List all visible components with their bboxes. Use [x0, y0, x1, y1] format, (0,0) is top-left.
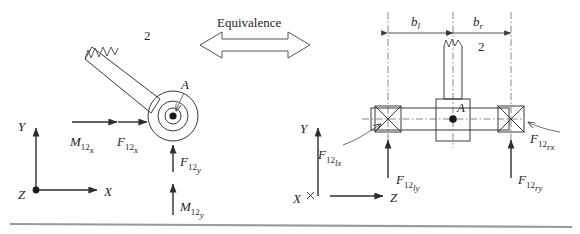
label-bearing-left-x: F12lx — [317, 147, 341, 168]
left-axes: Y X Z — [18, 119, 113, 202]
right-axis-label-x: X — [292, 191, 302, 206]
load-bearing-left-x: F12lx — [317, 124, 381, 168]
label-bearing-right-x: F12rx — [529, 131, 554, 152]
right-view: bl br A 2 — [292, 12, 560, 206]
double-headed-arrow — [200, 32, 310, 58]
bottom-rule — [10, 224, 572, 227]
x-axis-into-page-cross — [307, 192, 314, 199]
equivalence-label: Equivalence — [217, 15, 281, 30]
load-force-y-left: F12y — [173, 145, 201, 175]
joint-center-dot — [169, 112, 176, 119]
label-bearing-right-y: F12ry — [517, 172, 542, 193]
equivalence-marker: Equivalence — [200, 15, 310, 58]
right-axes: Y Z X — [292, 121, 398, 206]
label-force-x: F12x — [116, 134, 138, 155]
z-axis-out-of-page-dot — [33, 187, 40, 194]
left-axis-label-y: Y — [18, 119, 27, 134]
load-moment-y-left: M12y — [173, 184, 204, 220]
load-moment-x-left: M12x — [69, 122, 117, 155]
left-axis-label-z: Z — [18, 187, 26, 202]
label-moment-x: M12x — [69, 134, 94, 155]
left-joint-label: A — [180, 77, 189, 92]
left-axis-label-x: X — [103, 184, 113, 199]
right-joint-label: A — [456, 100, 465, 115]
crank-hub — [148, 91, 198, 141]
right-link-number: 2 — [478, 39, 485, 54]
label-bearing-left-y: F12ly — [395, 172, 419, 193]
left-view: 2 A M12x F12x F12y — [18, 28, 204, 220]
right-axis-label-y: Y — [300, 121, 309, 136]
right-joint-center-dot — [449, 115, 457, 123]
load-bearing-left-y: F12ly — [388, 140, 419, 193]
dimension-b-right: br — [453, 14, 511, 33]
label-b-left: bl — [411, 14, 421, 31]
label-b-right: br — [473, 14, 484, 31]
load-bearing-right-x: F12rx — [528, 122, 560, 152]
engineering-figure: 2 A M12x F12x F12y — [0, 0, 580, 234]
load-force-x-left: F12x — [116, 122, 147, 155]
link-arm — [85, 47, 160, 113]
right-axis-label-z: Z — [390, 190, 398, 205]
dimension-b-left: bl — [388, 14, 453, 33]
left-link-number: 2 — [144, 28, 151, 43]
label-moment-y: M12y — [179, 199, 204, 220]
label-force-y: F12y — [179, 154, 201, 175]
